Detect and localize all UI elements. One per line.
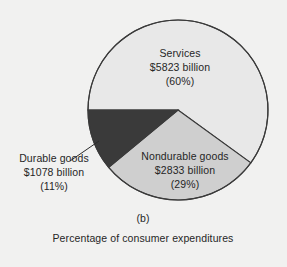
- slice-label-services: Services $5823 billion (60%): [132, 47, 228, 89]
- nondurable-goods-value: $2833 billion: [128, 164, 242, 178]
- durable-goods-name: Durable goods: [2, 152, 106, 166]
- services-value: $5823 billion: [132, 61, 228, 75]
- nondurable-goods-name: Nondurable goods: [128, 150, 242, 164]
- nondurable-goods-percent: (29%): [128, 178, 242, 192]
- panel-label: (b): [93, 212, 193, 226]
- figure-caption: Percentage of consumer expenditures: [18, 232, 268, 246]
- pie-chart-figure: Services $5823 billion (60%) Nondurable …: [0, 0, 287, 267]
- durable-goods-percent: (11%): [2, 180, 106, 194]
- services-percent: (60%): [132, 75, 228, 89]
- durable-goods-value: $1078 billion: [2, 166, 106, 180]
- slice-label-nondurable-goods: Nondurable goods $2833 billion (29%): [128, 150, 242, 192]
- services-name: Services: [132, 47, 228, 61]
- slice-label-durable-goods: Durable goods $1078 billion (11%): [2, 152, 106, 194]
- pie-chart-graphic: [0, 0, 287, 267]
